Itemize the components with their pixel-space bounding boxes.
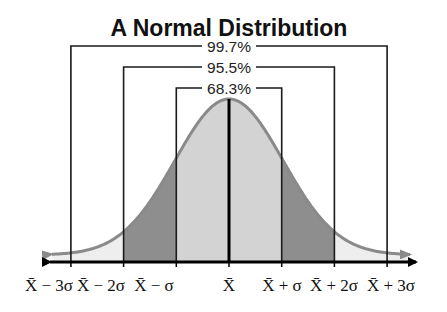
- tick-label: X̄: [223, 276, 235, 295]
- tick-label: X̄ − 3σ: [25, 276, 73, 295]
- tick-label: X̄ + σ: [262, 276, 302, 295]
- axis-tick-labels: X̄ − 3σX̄ − 2σX̄ − σX̄X̄ + σX̄ + 2σX̄ + …: [25, 276, 415, 295]
- tick-label: X̄ − σ: [134, 276, 174, 295]
- tick-label: X̄ + 3σ: [367, 276, 415, 295]
- region-tail: [334, 90, 408, 262]
- tick-label: X̄ + 2σ: [310, 276, 358, 295]
- pct-label-68-3: 68.3%: [207, 80, 251, 97]
- pct-label-99-7: 99.7%: [207, 38, 251, 55]
- normal-distribution-chart: A Normal Distribution 99.7% 95.5% 68.3% …: [0, 0, 447, 312]
- region-tail: [52, 90, 124, 262]
- pct-label-95-5: 95.5%: [207, 59, 251, 76]
- tick-label: X̄ − 2σ: [77, 276, 125, 295]
- region-between-1-and-2-sd: [282, 90, 335, 262]
- region-between-1-and-2-sd: [124, 90, 177, 262]
